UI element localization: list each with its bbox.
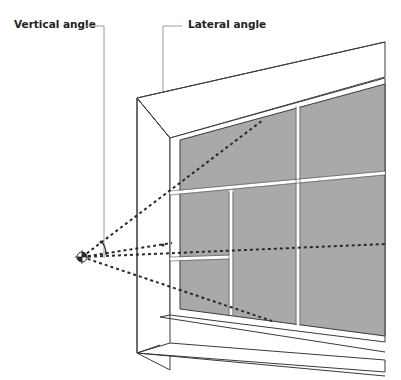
vertical-angle-leader: [86, 26, 104, 258]
window-perspective-diagram: [0, 0, 401, 380]
